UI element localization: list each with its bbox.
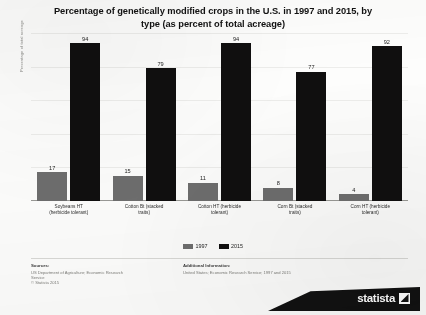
- x-axis-category-labels: Soybeans HT(herbicide tolerant)Cotton Bt…: [31, 204, 408, 217]
- bar-2015: [70, 43, 100, 201]
- legend-swatch-2015: [219, 244, 229, 249]
- category-label-line: traits): [108, 210, 179, 216]
- category-label: Cotton Bt (stackedtraits): [106, 204, 181, 217]
- bar-2015: [146, 68, 176, 201]
- bar-value-label: 4: [352, 187, 355, 193]
- bar-item: 17: [37, 33, 67, 201]
- bar-value-label: 15: [124, 168, 130, 174]
- bar-2015: [372, 46, 402, 201]
- bar-value-label: 11: [200, 175, 206, 181]
- title-line-2: type (as percent of total acreage): [20, 18, 406, 31]
- bar-group: 492: [333, 33, 408, 201]
- bar-1997: [263, 188, 293, 201]
- bar-item: 4: [339, 33, 369, 201]
- bar-1997: [188, 183, 218, 201]
- sources-heading: Sources:: [31, 263, 183, 269]
- bar-group: 1194: [182, 33, 257, 201]
- bar-1997: [339, 194, 369, 201]
- category-label: Cotton HT (herbicidetolerant): [182, 204, 257, 217]
- category-label-line: (herbicide tolerant): [33, 210, 104, 216]
- category-label: Corn HT (herbicidetolerant): [333, 204, 408, 217]
- bar-1997: [37, 172, 67, 201]
- title-line-1: Percentage of genetically modified crops…: [20, 5, 406, 18]
- footer: Sources: US Department of Agriculture; E…: [31, 263, 408, 286]
- bar-group: 1579: [106, 33, 181, 201]
- statista-logo: statista: [268, 287, 420, 311]
- statista-arrow-icon: [399, 293, 410, 304]
- additional-info-heading: Additional Information:: [183, 263, 383, 269]
- bar-value-label: 77: [308, 64, 314, 70]
- footer-divider: [31, 258, 408, 259]
- bar-1997: [113, 176, 143, 201]
- bar-item: 77: [296, 33, 326, 201]
- logo-content: statista: [357, 292, 410, 304]
- legend: 19972015: [0, 243, 426, 249]
- bar-item: 15: [113, 33, 143, 201]
- legend-swatch-1997: [183, 244, 193, 249]
- bar-pair: 877: [257, 33, 332, 201]
- sources-copyright: © Statista 2015: [31, 280, 183, 285]
- bar-item: 94: [221, 33, 251, 201]
- bar-value-label: 17: [49, 165, 55, 171]
- category-label-line: tolerant): [335, 210, 406, 216]
- legend-item[interactable]: 2015: [219, 243, 244, 249]
- legend-item[interactable]: 1997: [183, 243, 208, 249]
- category-label: Corn Bt (stackedtraits): [257, 204, 332, 217]
- bar-item: 94: [70, 33, 100, 201]
- bar-pair: 1194: [182, 33, 257, 201]
- bar-2015: [221, 43, 251, 201]
- sources-block: Sources: US Department of Agriculture; E…: [31, 263, 183, 286]
- additional-info-line-1: United States; Economic Research Service…: [183, 270, 383, 275]
- legend-label: 1997: [196, 243, 208, 249]
- bar-pair: 492: [333, 33, 408, 201]
- legend-label: 2015: [231, 243, 243, 249]
- bar-2015: [296, 72, 326, 201]
- category-label-line: tolerant): [184, 210, 255, 216]
- bar-item: 8: [263, 33, 293, 201]
- bar-groups: 179415791194877492: [31, 33, 408, 201]
- bar-item: 92: [372, 33, 402, 201]
- bar-value-label: 8: [277, 180, 280, 186]
- bar-item: 79: [146, 33, 176, 201]
- chart-page: Percentage of genetically modified crops…: [0, 0, 426, 315]
- bar-group: 1794: [31, 33, 106, 201]
- bar-value-label: 79: [157, 61, 163, 67]
- bar-value-label: 94: [82, 36, 88, 42]
- additional-info-block: Additional Information: United States; E…: [183, 263, 383, 286]
- category-label-line: traits): [259, 210, 330, 216]
- page-title: Percentage of genetically modified crops…: [20, 5, 406, 30]
- bar-item: 11: [188, 33, 218, 201]
- bar-pair: 1579: [106, 33, 181, 201]
- bar-pair: 1794: [31, 33, 106, 201]
- logo-wordmark: statista: [357, 292, 395, 304]
- category-label: Soybeans HT(herbicide tolerant): [31, 204, 106, 217]
- bar-group: 877: [257, 33, 332, 201]
- bar-value-label: 92: [384, 39, 390, 45]
- bar-value-label: 94: [233, 36, 239, 42]
